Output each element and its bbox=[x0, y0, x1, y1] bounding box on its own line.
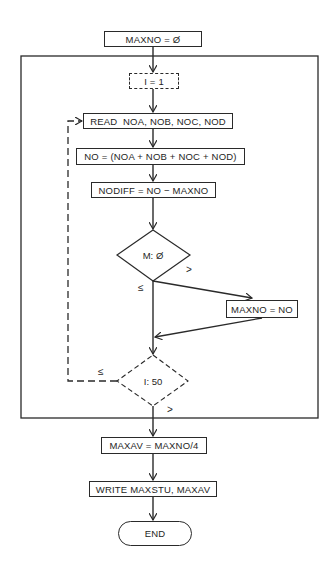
read-box: READ NOA, NOB, NOC, NOD bbox=[83, 113, 233, 129]
average-box: MAXAV = MAXNO/4 bbox=[101, 437, 207, 454]
sum-text: NO = (NOA + NOB + NOC + NOD) bbox=[84, 151, 236, 162]
loop-start-text: I = 1 bbox=[144, 76, 164, 87]
edge-label-m-le: ≤ bbox=[138, 282, 144, 293]
loop-boundary bbox=[21, 56, 318, 418]
edge-label-i-gt: > bbox=[167, 404, 173, 415]
loop-start-box: I = 1 bbox=[129, 73, 179, 89]
init-maxno-text: MAXNO = Ø bbox=[126, 34, 181, 45]
edge-label-i-le: ≤ bbox=[98, 366, 104, 377]
read-text: READ NOA, NOB, NOC, NOD bbox=[90, 116, 226, 127]
write-text: WRITE MAXSTU, MAXAV bbox=[96, 484, 210, 495]
diff-text: NODIFF = NO − MAXNO bbox=[99, 185, 209, 196]
end-text: END bbox=[145, 528, 166, 539]
sum-box: NO = (NOA + NOB + NOC + NOD) bbox=[76, 148, 245, 165]
edge-label-m-gt: > bbox=[186, 264, 192, 275]
end-terminal: END bbox=[118, 521, 192, 546]
diff-box: NODIFF = NO − MAXNO bbox=[91, 182, 216, 198]
average-text: MAXAV = MAXNO/4 bbox=[109, 440, 198, 451]
decision-i-text: I: 50 bbox=[144, 376, 163, 387]
write-box: WRITE MAXSTU, MAXAV bbox=[89, 481, 217, 497]
init-maxno-box: MAXNO = Ø bbox=[104, 31, 202, 47]
assign-max-box: MAXNO = NO bbox=[226, 300, 298, 318]
assign-max-text: MAXNO = NO bbox=[231, 304, 293, 315]
decision-m-text: M: Ø bbox=[143, 250, 164, 261]
